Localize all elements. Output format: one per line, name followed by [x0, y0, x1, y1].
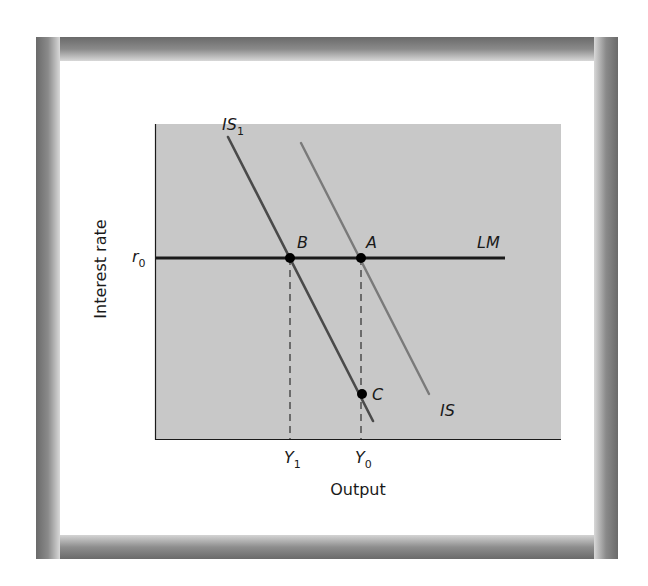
y-axis-title: Interest rate: [91, 219, 110, 318]
point-a-label: A: [365, 233, 377, 252]
point-c: [357, 389, 367, 399]
point-a: [356, 253, 366, 263]
point-b: [285, 253, 295, 263]
point-c-label: C: [372, 385, 384, 404]
x-tick-y0: Y0: [355, 448, 372, 471]
lm-label: LM: [477, 233, 500, 252]
point-b-label: B: [297, 233, 308, 252]
is-lm-diagram: IS1 IS LM B A C r0 Y1 Y0 Output Interest…: [0, 0, 648, 586]
is-label: IS: [440, 401, 455, 420]
x-tick-y1: Y1: [284, 448, 301, 471]
y-tick-r0: r0: [132, 247, 146, 270]
x-axis-title: Output: [330, 480, 386, 499]
